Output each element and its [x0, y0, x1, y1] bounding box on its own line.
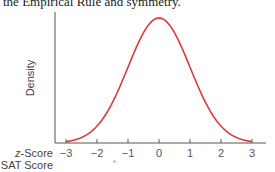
x-tick-label: −1: [122, 147, 135, 159]
x-axis-ticks: [66, 139, 252, 143]
x-tick-label: 3: [249, 147, 255, 159]
density-curve: [66, 18, 252, 142]
sat-score-row-label: SAT Score: [1, 159, 53, 171]
x-tick-label: −3: [60, 147, 73, 159]
x-tick-label: 0: [156, 147, 162, 159]
x-tick-label: 1: [187, 147, 193, 159]
stray-mark: [113, 160, 116, 163]
y-axis-label: Density: [24, 60, 36, 97]
z-score-row-label: z-Score: [15, 147, 53, 159]
x-tick-label: −2: [91, 147, 104, 159]
x-tick-label: 2: [218, 147, 224, 159]
